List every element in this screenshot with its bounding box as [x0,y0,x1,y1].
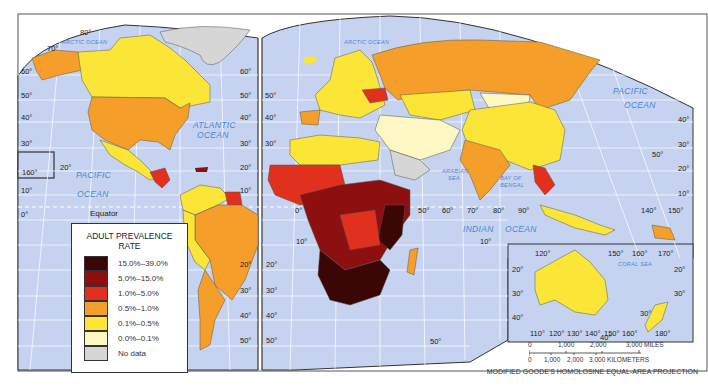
legend-item: 15.0%–39.0% [84,256,184,271]
arctic-ocean-west-label: ARCTIC OCEAN [61,39,107,45]
legend-item: 1.0%–5.0% [84,286,184,301]
scale-miles-2000: 2,000 [590,341,606,348]
pacific-east-label-2: OCEAN [624,100,656,110]
inset-lat-label: 20° [512,265,523,274]
scale-miles-1000: 1,000 [558,341,574,348]
lat-label: 10° [296,237,307,246]
lat-label: 10° [678,189,689,198]
arabian-sea-label-2: SEA [448,175,460,181]
inset-lon-label: 170° [658,249,674,258]
lon-label: 60° [442,206,453,215]
lon-label: 150° [668,206,684,215]
lon-label: 0° [295,206,302,215]
lat-label: 10° [21,186,32,195]
lat-label: 20° [678,164,689,173]
legend-title: ADULT PREVALENCE RATE [72,231,187,251]
scale-km-0: 0 [528,356,532,363]
inset-lat-label: 20° [674,265,685,274]
lat-label: 20° [240,260,251,269]
scale-bar: 0 1,000 2,000 3,000 MILES 0 1,000 2,000 … [522,340,708,388]
inset-lat-label: 30° [674,289,685,298]
lat-label: 40° [21,113,32,122]
legend-item: 0.1%–0.5% [84,316,184,331]
inset-lat-label: 30° [512,289,523,298]
lat-label: 30° [21,139,32,148]
inset-lon-label: 180° [655,329,671,338]
lat-label: 40° [265,113,276,122]
legend-label: 0.1%–0.5% [118,319,159,328]
scale-miles-3000: 3,000 MILES [626,341,664,348]
legend-swatch [84,256,108,271]
indian-ocean-label-1: INDIAN [463,224,494,234]
lat-label: 50° [240,91,251,100]
legend-swatch [84,286,108,301]
legend-swatch [84,301,108,316]
lat-label: 30° [265,139,276,148]
legend-label: 0.0%–0.1% [118,334,159,343]
lat-label: 10° [240,186,251,195]
lon-label: 80° [493,206,504,215]
scale-miles-0: 0 [528,341,532,348]
lat-label: 50° [21,91,32,100]
legend-item: No data [84,346,184,361]
equator-label: Equator [90,209,118,218]
legend-title-line2: RATE [72,241,187,251]
arabian-sea-label-1: ARABIAN [441,168,468,174]
lon-label: 140° [641,206,657,215]
lat-label: 40° [266,311,277,320]
lat-label: 50° [265,91,276,100]
lat-label: 60° [240,67,251,76]
bay-of-bengal-label-1: BAY OF [500,175,522,181]
lat-label: 10° [480,237,491,246]
inset-lon-label: 130° [567,329,583,338]
lat-label: 30° [240,139,251,148]
atlantic-label-2: OCEAN [197,130,229,140]
scale-km-2000: 2,000 [567,356,583,363]
lat-label: 30° [266,286,277,295]
inset-lon-label: 110° [530,329,545,338]
legend-swatch [84,346,108,361]
inset-lon-label: 150° [608,249,624,258]
lat-label: 50° [266,336,277,345]
lat-label: 30° [240,286,251,295]
lat-label: 20° [60,163,71,172]
lat-label: 40° [240,113,251,122]
lat-label: 70° [47,44,58,53]
lat-label: 0° [21,210,28,219]
inset-lon-label: 160° [632,249,648,258]
lon-label: 160° [22,168,38,177]
coral-sea-label: CORAL SEA [618,261,652,267]
legend-swatch [84,316,108,331]
inset-lon-label: 140° [585,329,601,338]
lat-label: 20° [266,260,277,269]
inset-lon-label: 160° [622,329,638,338]
legend: ADULT PREVALENCE RATE 15.0%–39.0% 5.0%–1… [71,223,188,373]
lobe-divider [258,38,262,370]
legend-item: 0.5%–1.0% [84,301,184,316]
bay-of-bengal-label-2: BENGAL [500,182,524,188]
legend-label: No data [118,349,146,358]
projection-caption: MODIFIED GOODE'S HOMOLOSINE EQUAL-AREA P… [487,368,698,375]
legend-item: 0.0%–0.1% [84,331,184,346]
legend-label: 15.0%–39.0% [118,259,168,268]
legend-swatch [84,331,108,346]
legend-item: 5.0%–15.0% [84,271,184,286]
legend-title-line1: ADULT PREVALENCE [72,231,187,241]
legend-label: 5.0%–15.0% [118,274,163,283]
legend-swatch [84,271,108,286]
lat-label: 40° [678,115,689,124]
lat-label: 50° [430,337,441,346]
inset-lon-label: 150° [604,329,620,338]
scale-km-1000: 1,000 [544,356,560,363]
legend-label: 0.5%–1.0% [118,304,159,313]
lat-label: 30° [640,309,651,318]
spain [300,110,320,125]
pacific-west-label-1: PACIFIC [76,170,112,180]
inset-lon-label: 120° [535,249,551,258]
lon-label: 70° [467,206,478,215]
inset-lat-label: 40° [512,313,523,322]
lat-label: 80° [80,28,91,37]
lat-label: 40° [240,311,251,320]
lat-label: 20° [240,163,251,172]
arctic-ocean-east-label: ARCTIC OCEAN [343,39,389,45]
